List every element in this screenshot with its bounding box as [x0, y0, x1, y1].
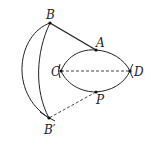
segment-b-a — [50, 23, 96, 50]
point-d — [128, 69, 131, 72]
upper-arc-c-a-d — [61, 50, 130, 71]
label-p: P — [95, 93, 105, 107]
label-bprime: B′ — [43, 123, 56, 137]
point-bprime — [47, 116, 50, 119]
label-b: B — [45, 8, 55, 22]
diagram: B A C D P B′ — [0, 0, 153, 148]
dashed-segment-p-bprime — [49, 92, 96, 118]
inner-arc-b-bprime — [39, 23, 50, 118]
label-d: D — [133, 65, 144, 79]
lower-arc-c-p-d — [61, 71, 130, 92]
label-c: C — [51, 65, 60, 79]
arc-tick-bprime — [40, 112, 55, 121]
outer-arc-b-bprime — [22, 23, 50, 118]
label-a: A — [95, 36, 105, 50]
